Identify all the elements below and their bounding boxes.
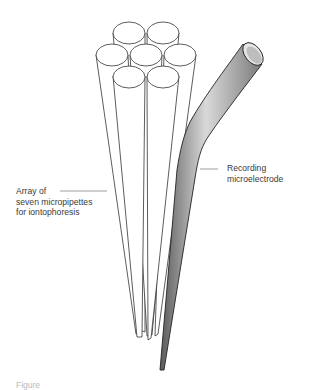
recording-label-line-1: Recording <box>227 163 283 174</box>
figure-caption: Figure <box>16 380 40 390</box>
array-label: Array of seven micropipettes for iontoph… <box>16 186 92 218</box>
array-label-line-1: Array of <box>16 186 92 197</box>
array-label-line-3: for iontophoresis <box>16 207 92 218</box>
array-label-line-2: seven micropipettes <box>16 197 92 208</box>
recording-label-line-2: microelectrode <box>227 174 283 185</box>
recording-label: Recording microelectrode <box>227 163 283 184</box>
